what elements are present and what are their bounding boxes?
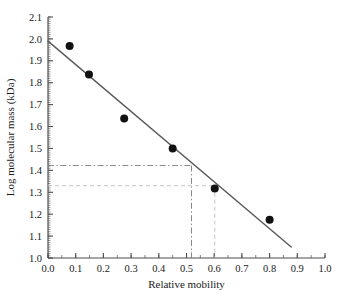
y-tick-label: 1.1 (29, 231, 42, 242)
y-tick-label: 1.7 (29, 99, 42, 110)
x-tick-label: 0.4 (152, 263, 166, 274)
y-tick-label: 1.4 (29, 165, 43, 176)
y-tick-label: 1.9 (29, 55, 42, 66)
y-tick-label: 1.3 (29, 187, 42, 198)
x-tick-label: 0.1 (69, 263, 82, 274)
x-tick-label: 1.0 (318, 263, 331, 274)
x-tick-label: 0.8 (263, 263, 276, 274)
x-tick-label: 0.9 (291, 263, 304, 274)
x-tick-label: 0.2 (97, 263, 110, 274)
y-tick-label: 1.6 (29, 121, 42, 132)
y-tick-label: 1.2 (29, 209, 42, 220)
y-tick-label: 2.0 (29, 34, 42, 45)
data-point (211, 185, 219, 193)
x-tick-label: 0.6 (208, 263, 221, 274)
data-point (266, 216, 274, 224)
y-axis-title: Log molecular mass (kDa) (4, 78, 17, 196)
y-tick-label: 1.5 (29, 143, 42, 154)
x-tick-label: 0.3 (125, 263, 138, 274)
data-point (120, 114, 128, 122)
data-point (169, 144, 177, 152)
y-tick-label: 1.0 (29, 253, 42, 264)
y-tick-label: 1.8 (29, 77, 42, 88)
x-axis-title: Relative mobility (148, 278, 225, 290)
x-tick-label: 0.0 (41, 263, 54, 274)
y-tick-label: 2.1 (29, 12, 42, 23)
data-point (66, 42, 74, 50)
scatter-plot: 1.01.11.21.31.41.51.61.71.81.92.02.1 0.0… (0, 0, 342, 304)
x-tick-label: 0.5 (180, 263, 193, 274)
x-tick-label: 0.7 (235, 263, 248, 274)
chart-figure: 1.01.11.21.31.41.51.61.71.81.92.02.1 0.0… (0, 0, 342, 304)
data-point (85, 70, 93, 78)
